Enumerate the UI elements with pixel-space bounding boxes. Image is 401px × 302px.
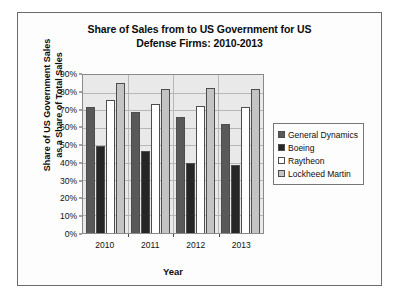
chart-legend: General DynamicsBoeingRaytheonLockheed M… bbox=[273, 123, 364, 185]
bar[interactable] bbox=[131, 112, 140, 233]
legend-swatch-icon bbox=[278, 131, 285, 138]
bar[interactable] bbox=[231, 165, 240, 233]
plot-area bbox=[82, 74, 264, 234]
bar[interactable] bbox=[96, 146, 105, 233]
bar-group bbox=[128, 75, 173, 233]
bar[interactable] bbox=[106, 100, 115, 233]
legend-label: Lockheed Martin bbox=[288, 169, 351, 179]
bar[interactable] bbox=[141, 151, 150, 233]
x-axis-title: Year bbox=[82, 266, 264, 277]
legend-swatch-icon bbox=[278, 157, 285, 164]
y-tick-mark bbox=[79, 180, 82, 181]
bar[interactable] bbox=[251, 89, 260, 233]
bar-group bbox=[218, 75, 263, 233]
y-tick-mark bbox=[79, 145, 82, 146]
bar[interactable] bbox=[151, 104, 160, 233]
bar[interactable] bbox=[221, 124, 230, 233]
y-tick-label: 40% bbox=[60, 158, 77, 168]
y-tick-label: 80% bbox=[60, 87, 77, 97]
legend-item[interactable]: Lockheed Martin bbox=[278, 167, 358, 180]
legend-label: Boeing bbox=[288, 143, 314, 153]
y-tick-mark bbox=[79, 234, 82, 235]
y-tick-label: 30% bbox=[60, 176, 77, 186]
bar-group bbox=[83, 75, 128, 233]
bar[interactable] bbox=[196, 106, 205, 233]
x-tick-mark bbox=[128, 234, 129, 237]
x-tick-label: 2010 bbox=[95, 240, 114, 250]
y-tick-label: 20% bbox=[60, 193, 77, 203]
chart-title-line-1: Share of Sales from to US Government for… bbox=[88, 23, 312, 35]
legend-item[interactable]: General Dynamics bbox=[278, 128, 358, 141]
y-tick-mark bbox=[79, 91, 82, 92]
y-tick-mark bbox=[79, 109, 82, 110]
x-tick-mark bbox=[219, 234, 220, 237]
bar[interactable] bbox=[161, 89, 170, 233]
legend-item[interactable]: Raytheon bbox=[278, 154, 358, 167]
x-tick-label: 2013 bbox=[232, 240, 251, 250]
y-tick-label: 0% bbox=[65, 229, 77, 239]
y-tick-mark bbox=[79, 127, 82, 128]
bar-group bbox=[173, 75, 218, 233]
y-tick-mark bbox=[79, 216, 82, 217]
plot-wrapper: 0%10%20%30%40%50%60%70%80%90% 2010201120… bbox=[82, 74, 264, 234]
x-tick-mark bbox=[173, 234, 174, 237]
y-tick-label: 90% bbox=[60, 69, 77, 79]
y-tick-label: 50% bbox=[60, 140, 77, 150]
bar[interactable] bbox=[206, 88, 215, 233]
y-tick-label: 10% bbox=[60, 211, 77, 221]
bar[interactable] bbox=[176, 117, 185, 233]
y-tick-mark bbox=[79, 74, 82, 75]
x-tick-label: 2012 bbox=[186, 240, 205, 250]
legend-item[interactable]: Boeing bbox=[278, 141, 358, 154]
bar[interactable] bbox=[86, 107, 95, 233]
legend-label: General Dynamics bbox=[288, 130, 358, 140]
y-tick-mark bbox=[79, 162, 82, 163]
legend-swatch-icon bbox=[278, 170, 285, 177]
legend-label: Raytheon bbox=[288, 156, 324, 166]
chart-title-line-2: Defense Firms: 2010-2013 bbox=[18, 36, 381, 50]
bar[interactable] bbox=[116, 83, 125, 233]
y-tick-mark bbox=[79, 198, 82, 199]
y-axis-title-line-1: Share of US Government Sales bbox=[42, 39, 52, 172]
legend-swatch-icon bbox=[278, 144, 285, 151]
chart-title: Share of Sales from to US Government for… bbox=[18, 22, 381, 50]
bars-layer bbox=[83, 75, 263, 233]
bar[interactable] bbox=[186, 163, 195, 233]
chart-container: Share of Sales from to US Government for… bbox=[17, 12, 382, 286]
bar[interactable] bbox=[241, 107, 250, 233]
x-tick-label: 2011 bbox=[141, 240, 159, 250]
y-tick-label: 60% bbox=[60, 122, 77, 132]
y-tick-label: 70% bbox=[60, 105, 77, 115]
